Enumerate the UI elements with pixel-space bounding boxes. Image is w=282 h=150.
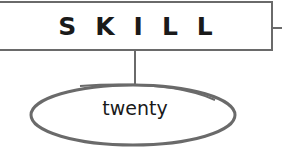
- skill-node-box: SKILL: [0, 1, 273, 51]
- child-node-label: twenty: [40, 97, 230, 119]
- skill-node-label: SKILL: [58, 12, 232, 41]
- diagram-canvas: SKILL twenty: [0, 0, 282, 150]
